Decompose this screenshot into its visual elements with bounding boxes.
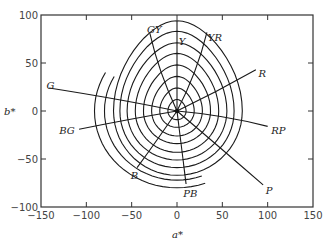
hue-line-pb <box>177 111 186 184</box>
chroma-open-arc <box>105 76 202 180</box>
y-tick-label: 0 <box>32 106 38 117</box>
x-tick-label: −100 <box>73 210 100 221</box>
hue-label-y: Y <box>179 36 187 47</box>
x-axis-title: a* <box>172 229 183 240</box>
hue-label-p: P <box>265 185 273 196</box>
hue-label-bg: BG <box>58 125 75 136</box>
hue-label-pb: PB <box>182 188 197 199</box>
x-tick-label: −50 <box>121 210 142 221</box>
hue-labels: GBGBPBPRPRYRYGY <box>46 24 285 198</box>
x-tick-label: 50 <box>216 210 229 221</box>
axis-ticks: −150−100−50050100150100500−50−100 <box>11 10 323 221</box>
hue-line-rp <box>177 111 268 126</box>
cielab-hue-chroma-chart: −150−100−50050100150100500−50−100 GBGBPB… <box>0 0 327 249</box>
y-tick-label: 50 <box>25 58 38 69</box>
hue-label-rp: RP <box>270 125 286 136</box>
chroma-contours <box>95 21 243 188</box>
x-tick-label: 150 <box>303 210 322 221</box>
y-tick-label: 100 <box>19 10 38 21</box>
origin-hub <box>175 109 179 113</box>
y-tick-label: −50 <box>17 154 38 165</box>
hue-label-yr: YR <box>208 32 223 43</box>
y-tick-label: −100 <box>11 202 38 213</box>
hue-line-r <box>177 70 256 111</box>
hue-label-b: B <box>130 170 138 181</box>
hue-label-gy: GY <box>147 24 163 35</box>
hue-label-r: R <box>258 68 267 79</box>
y-axis-title: b* <box>4 106 15 117</box>
hue-lines <box>49 21 268 185</box>
x-tick-label: 100 <box>258 210 277 221</box>
x-tick-label: 0 <box>174 210 180 221</box>
hue-label-g: G <box>46 80 54 91</box>
